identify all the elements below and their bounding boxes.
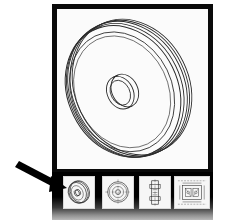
thumbnail-strip[interactable] <box>52 172 213 220</box>
thumbnail-assembly-detail-view[interactable] <box>174 176 210 209</box>
thumbnail-concentric-circles-icon <box>103 177 133 208</box>
thumbnail-section-profile-view[interactable] <box>139 176 171 209</box>
thumbnail-vertical-section-icon <box>140 177 170 208</box>
main-drawing-panel[interactable] <box>57 9 208 169</box>
thumbnail-isometric-pulley[interactable] <box>63 176 95 209</box>
thumbnail-front-plan-view[interactable] <box>102 176 134 209</box>
pulley-isometric-drawing <box>57 9 208 169</box>
thumbnail-assembly-detail-icon <box>175 177 209 208</box>
thumbnail-isometric-icon <box>64 177 94 208</box>
